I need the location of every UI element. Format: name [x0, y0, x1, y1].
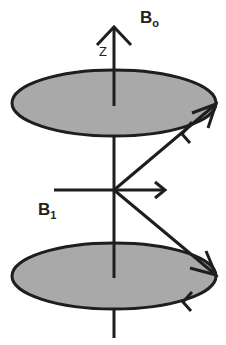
b1-label: B1: [38, 200, 56, 221]
nmr-precession-diagram: [0, 0, 226, 345]
b1-label-main: B: [38, 200, 50, 219]
b1-field-arrow: [54, 182, 165, 198]
b0-label-main: B: [140, 8, 152, 27]
b1-label-sub: 1: [50, 209, 56, 221]
b0-label-sub: o: [152, 17, 159, 29]
b0-label: Bo: [140, 8, 159, 29]
z-axis-label: Z: [99, 44, 107, 59]
